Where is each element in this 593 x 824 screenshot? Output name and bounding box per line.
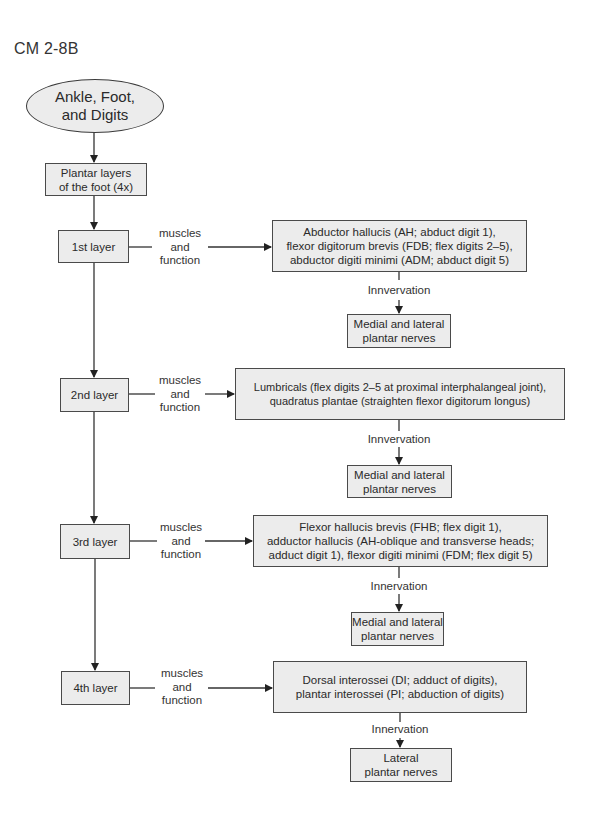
layer-4-innervation-label: Innervation	[350, 723, 450, 735]
layer-3-connector-label: muscles and function	[151, 521, 211, 562]
overview-node-plantar-layers: Plantar layers of the foot (4x)	[45, 163, 147, 196]
layer-2-muscles-box: Lumbricals (flex digits 2–5 at proximal …	[235, 368, 565, 420]
layer-3-node: 3rd layer	[60, 524, 130, 559]
layer-2-innervation-label: Innvervation	[349, 433, 449, 445]
layer-4-nerves-box: Lateral plantar nerves	[350, 748, 452, 782]
layer-2-nerves-box: Medial and lateral plantar nerves	[347, 465, 452, 498]
root-node-ankle-foot-digits: Ankle, Foot, and Digits	[26, 79, 164, 133]
layer-1-muscles-box: Abductor hallucis (AH; abduct digit 1), …	[272, 220, 527, 272]
layer-1-node: 1st layer	[58, 230, 129, 263]
layer-3-innervation-label: Innervation	[349, 580, 449, 592]
layer-3-muscles-box: Flexor hallucis brevis (FHB; flex digit …	[253, 515, 548, 567]
layer-1-connector-label: muscles and function	[150, 227, 210, 268]
layer-2-connector-label: muscles and function	[150, 374, 210, 415]
layer-1-innervation-label: Innvervation	[349, 284, 449, 296]
layer-4-connector-label: muscles and function	[152, 667, 212, 708]
layer-4-node: 4th layer	[61, 671, 130, 705]
layer-1-nerves-box: Medial and lateral plantar nerves	[347, 314, 451, 348]
layer-2-node: 2nd layer	[60, 378, 129, 412]
layer-4-muscles-box: Dorsal interossei (DI; adduct of digits)…	[273, 661, 527, 713]
layer-3-nerves-box: Medial and lateral plantar nerves	[351, 612, 444, 646]
